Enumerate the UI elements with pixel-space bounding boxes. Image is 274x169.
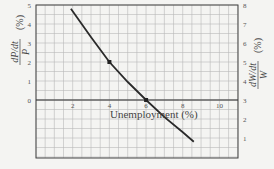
x-tick-label: 2	[71, 102, 75, 110]
phillips-curve-line	[71, 9, 194, 142]
right-y-tick-label: 2	[243, 116, 247, 124]
right-y-tick-label: 1	[243, 135, 247, 143]
phillips-curve-chart: 246810 012345 12345678 Unemployment (%) …	[0, 0, 274, 169]
left-y-tick-label: 4	[28, 21, 32, 29]
left-y-axis-label-numerator: dP/dt	[9, 41, 20, 63]
curve-marker	[144, 98, 148, 102]
right-y-tick-label: 8	[243, 2, 247, 10]
x-axis-label: Unemployment (%)	[110, 108, 198, 121]
left-y-tick-label: 5	[28, 2, 32, 10]
left-y-axis-unit: (%)	[14, 15, 26, 30]
right-y-tick-label: 7	[243, 21, 247, 29]
left-y-tick-label: 2	[28, 59, 32, 67]
right-y-axis-label-numerator: dW/dt	[247, 63, 258, 87]
grid	[36, 5, 238, 158]
right-y-axis-unit: (%)	[252, 38, 264, 53]
right-y-axis-label: dW/dt W (%)	[247, 38, 269, 89]
left-y-tick-label: 0	[28, 97, 32, 105]
left-y-tick-label: 3	[28, 40, 32, 48]
left-y-axis-label-denominator: P	[20, 49, 31, 56]
right-y-tick-label: 6	[243, 40, 247, 48]
x-tick-label: 10	[216, 102, 224, 110]
curve-marker	[107, 60, 111, 64]
left-y-tick-label: 1	[28, 78, 32, 86]
right-y-axis-label-denominator: W	[258, 69, 269, 79]
right-y-tick-label: 3	[243, 97, 247, 105]
